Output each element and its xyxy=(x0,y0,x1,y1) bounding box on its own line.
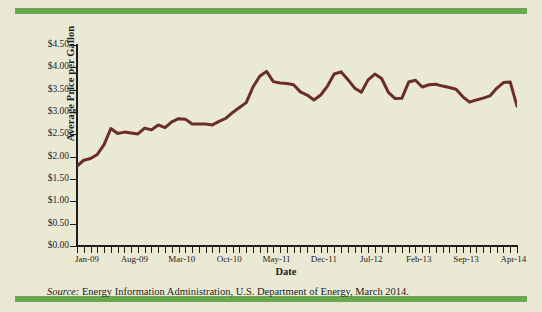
x-tick-mark xyxy=(179,247,180,253)
x-tick-mark xyxy=(97,247,98,253)
x-tick-mark xyxy=(415,247,416,253)
x-tick-mark xyxy=(280,247,281,253)
x-tick-mark xyxy=(118,247,119,253)
x-tick-mark xyxy=(510,247,511,253)
x-tick-label: Mar-10 xyxy=(168,254,195,264)
x-tick-mark xyxy=(483,247,484,253)
x-tick-mark xyxy=(375,247,376,253)
x-tick-mark xyxy=(300,247,301,253)
x-tick-mark xyxy=(260,247,261,253)
x-tick-mark xyxy=(212,247,213,253)
x-tick-mark xyxy=(395,247,396,253)
figure-container: Average Price per Gallon $4.50$4.00$3.50… xyxy=(0,0,542,312)
x-tick-mark xyxy=(77,247,78,253)
x-tick-mark xyxy=(327,247,328,253)
x-tick-mark xyxy=(436,247,437,253)
x-tick-label: Dec-11 xyxy=(311,254,337,264)
x-tick-mark xyxy=(314,247,315,253)
x-tick-label: Oct-10 xyxy=(217,254,242,264)
price-line-path xyxy=(77,71,517,166)
x-tick-mark xyxy=(476,247,477,253)
y-tick-label: $3.50 xyxy=(48,84,69,94)
x-tick-mark xyxy=(158,247,159,253)
y-tick-label: $0.50 xyxy=(48,218,69,228)
x-tick-mark xyxy=(219,247,220,253)
x-tick-mark xyxy=(382,247,383,253)
x-tick-mark xyxy=(470,247,471,253)
x-tick-mark xyxy=(388,247,389,253)
x-tick-mark xyxy=(429,247,430,253)
x-tick-mark xyxy=(449,247,450,253)
x-tick-mark xyxy=(206,247,207,253)
x-tick-mark xyxy=(253,247,254,253)
x-tick-mark xyxy=(246,247,247,253)
x-tick-label: Jan-09 xyxy=(75,254,99,264)
x-tick-mark xyxy=(273,247,274,253)
x-tick-mark xyxy=(503,247,504,253)
y-tick-label: $4.50 xyxy=(48,39,69,49)
x-tick-mark xyxy=(233,247,234,253)
source-label: Source: xyxy=(47,286,79,297)
x-tick-mark xyxy=(321,247,322,253)
x-tick-label: Feb-13 xyxy=(406,254,432,264)
y-tick-label: $2.00 xyxy=(48,151,69,161)
y-tick-label: $4.00 xyxy=(48,61,69,71)
x-tick-mark xyxy=(409,247,410,253)
x-tick-mark xyxy=(348,247,349,253)
x-tick-mark xyxy=(287,247,288,253)
x-tick-mark xyxy=(104,247,105,253)
x-tick-mark xyxy=(294,247,295,253)
x-tick-mark xyxy=(84,247,85,253)
x-tick-mark xyxy=(91,247,92,253)
x-tick-mark xyxy=(172,247,173,253)
x-tick-mark xyxy=(124,247,125,253)
price-line-series xyxy=(77,45,517,246)
x-tick-mark xyxy=(131,247,132,253)
source-text: Energy Information Administration, U.S. … xyxy=(79,286,409,297)
x-tick-mark xyxy=(361,247,362,253)
x-tick-mark xyxy=(138,247,139,253)
x-tick-mark xyxy=(355,247,356,253)
x-axis-title: Date xyxy=(15,266,542,277)
x-tick-label: Apr-14 xyxy=(501,254,527,264)
x-tick-mark xyxy=(517,247,518,253)
x-tick-mark xyxy=(368,247,369,253)
x-tick-mark xyxy=(239,247,240,253)
x-tick-label: Jul-12 xyxy=(360,254,383,264)
y-tick-label: $0.00 xyxy=(48,240,69,250)
x-tick-mark xyxy=(267,247,268,253)
plot-area xyxy=(77,45,517,246)
x-tick-mark xyxy=(192,247,193,253)
x-tick-mark xyxy=(402,247,403,253)
x-tick-mark xyxy=(341,247,342,253)
x-tick-mark xyxy=(165,247,166,253)
y-tick-label: $2.50 xyxy=(48,128,69,138)
x-tick-mark xyxy=(456,247,457,253)
x-tick-mark xyxy=(422,247,423,253)
x-tick-mark xyxy=(185,247,186,253)
x-tick-mark xyxy=(145,247,146,253)
x-tick-mark xyxy=(307,247,308,253)
x-tick-label: May-11 xyxy=(262,254,290,264)
x-tick-label: Aug-09 xyxy=(121,254,149,264)
x-tick-mark xyxy=(151,247,152,253)
x-tick-mark xyxy=(490,247,491,253)
y-tick-label: $1.00 xyxy=(48,195,69,205)
x-tick-mark xyxy=(497,247,498,253)
y-tick-label: $1.50 xyxy=(48,173,69,183)
y-axis-labels: $4.50$4.00$3.50$3.00$2.50$2.00$1.50$1.00… xyxy=(15,14,69,296)
x-tick-mark xyxy=(463,247,464,253)
x-tick-mark xyxy=(443,247,444,253)
source-note: Source: Energy Information Administratio… xyxy=(47,286,537,297)
x-tick-label: Sep-13 xyxy=(453,254,479,264)
y-tick-label: $3.00 xyxy=(48,106,69,116)
x-tick-mark xyxy=(334,247,335,253)
x-tick-mark xyxy=(226,247,227,253)
x-tick-mark xyxy=(199,247,200,253)
chart-panel: Average Price per Gallon $4.50$4.00$3.50… xyxy=(15,14,527,296)
x-tick-mark xyxy=(111,247,112,253)
